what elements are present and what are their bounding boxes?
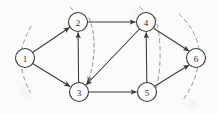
cut-tick-above-node-2 (70, 7, 76, 13)
node-5[interactable]: 5 (138, 83, 157, 102)
node-1-label: 1 (23, 54, 28, 64)
cut-curves-group (21, 7, 199, 100)
edge-1-to-3 (33, 64, 71, 87)
node-4[interactable]: 4 (137, 13, 156, 32)
node-6[interactable]: 6 (187, 49, 206, 68)
node-5-label: 5 (145, 88, 150, 98)
edges-group (33, 22, 190, 92)
node-3[interactable]: 3 (70, 83, 89, 102)
node-1[interactable]: 1 (16, 49, 35, 68)
edge-5-to-4 (146, 33, 147, 83)
edge-1-to-2 (33, 28, 70, 53)
cut-tick-above-node-4 (140, 7, 145, 13)
node-2-label: 2 (76, 18, 81, 28)
node-2[interactable]: 2 (69, 13, 88, 32)
nodes-group: 1 2 3 4 5 6 (16, 13, 206, 102)
cut-between-2-and-3 (88, 18, 94, 82)
node-6-label: 6 (194, 54, 199, 64)
node-3-label: 3 (77, 88, 82, 98)
graph-figure: 1 2 3 4 5 6 (0, 0, 218, 114)
node-4-label: 4 (144, 18, 149, 28)
edge-3-to-2 (78, 33, 79, 83)
graph-canvas: 1 2 3 4 5 6 (0, 0, 218, 114)
edge-5-to-6 (155, 65, 189, 86)
